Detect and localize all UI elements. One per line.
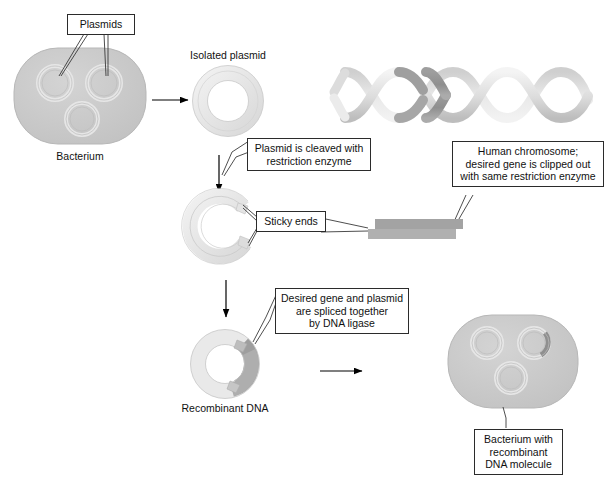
dna-double-helix-icon xyxy=(334,72,588,118)
plasmid-ring-icon xyxy=(193,66,264,137)
callout-bacterium-recombinant: Bacterium with recombinant DNA molecule xyxy=(474,429,563,475)
final-bacterium-leader-line xyxy=(503,407,506,428)
callout-plasmids: Plasmids xyxy=(67,14,135,35)
cleave-leader-line xyxy=(222,141,249,176)
callout-plasmid-cleaved: Plasmid is cleaved with restriction enzy… xyxy=(247,138,371,171)
label-bacterium: Bacterium xyxy=(38,150,122,163)
callout-desired-gene-spliced: Desired gene and plasmid are spliced tog… xyxy=(275,288,409,334)
ligase-leader-lines xyxy=(253,293,277,344)
bacterium-icon xyxy=(14,48,146,144)
diagram-graphics-layer xyxy=(0,0,609,490)
label-recombinant-dna: Recombinant DNA xyxy=(165,402,285,415)
cleaved-plasmid-icon xyxy=(182,188,250,264)
recombinant-dna-diagram: Plasmids Plasmid is cleaved with restric… xyxy=(0,0,609,490)
dna-fragment-bars-icon xyxy=(368,219,463,239)
label-isolated-plasmid: Isolated plasmid xyxy=(178,49,278,62)
callout-human-chromosome: Human chromosome; desired gene is clippe… xyxy=(452,141,604,187)
bacterium-icon xyxy=(448,315,578,408)
callout-sticky-ends: Sticky ends xyxy=(256,211,326,232)
recombinant-plasmid-icon xyxy=(191,330,260,399)
